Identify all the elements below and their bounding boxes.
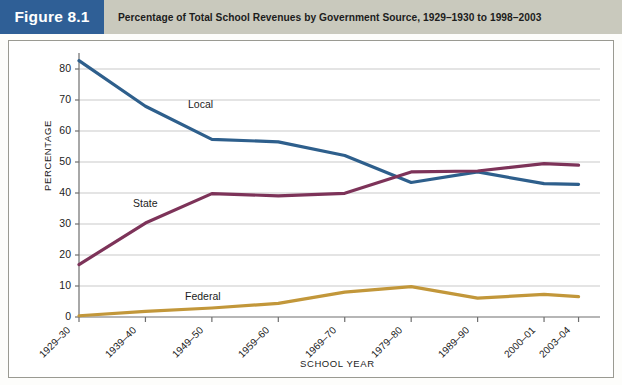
figure-container: Figure 8.1 Percentage of Total School Re… [0, 0, 622, 385]
chart-frame [8, 40, 614, 378]
figure-header-band: Figure 8.1 Percentage of Total School Re… [0, 0, 622, 34]
figure-number-tag: Figure 8.1 [0, 0, 104, 34]
figure-title: Percentage of Total School Revenues by G… [104, 0, 622, 34]
